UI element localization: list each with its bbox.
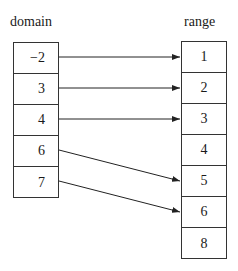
arrow-6-to-5 (59, 150, 180, 181)
mapping-arrows (0, 0, 238, 271)
arrow-7-to-6 (59, 181, 180, 212)
